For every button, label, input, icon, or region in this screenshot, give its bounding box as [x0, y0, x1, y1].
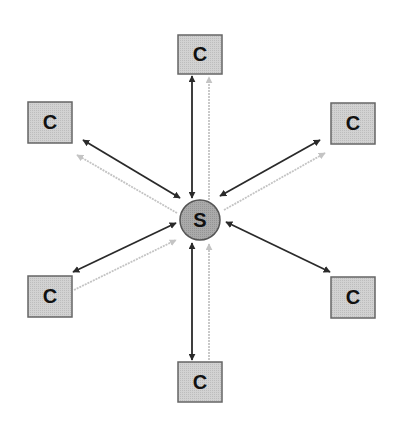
client-node-bottom-right: C: [331, 277, 375, 318]
client-node-top-left: C: [28, 102, 72, 143]
client-label: C: [43, 111, 57, 133]
light-arrow-top-right: [224, 153, 325, 210]
dark-arrow-top-right: [220, 140, 320, 196]
server-label: S: [193, 209, 206, 231]
edge-top: [192, 76, 209, 200]
star-topology-diagram: C C C C C C S: [0, 0, 398, 433]
edge-bottom-left: [73, 223, 176, 290]
client-node-top: C: [178, 35, 222, 74]
client-label: C: [346, 112, 360, 134]
light-arrow-top-left: [77, 155, 177, 213]
client-label: C: [346, 286, 360, 308]
edge-bottom: [192, 243, 209, 360]
server-node: S: [180, 200, 220, 240]
dark-arrow-bottom-right: [226, 222, 330, 272]
client-label: C: [193, 371, 207, 393]
edge-top-left: [77, 140, 180, 213]
client-node-bottom: C: [178, 362, 222, 402]
client-label: C: [43, 285, 57, 307]
client-node-bottom-left: C: [28, 276, 72, 317]
dark-arrow-top-left: [83, 140, 180, 198]
client-label: C: [193, 43, 207, 65]
edge-bottom-right: [226, 222, 330, 272]
client-node-top-right: C: [331, 103, 375, 144]
edge-top-right: [220, 140, 325, 210]
